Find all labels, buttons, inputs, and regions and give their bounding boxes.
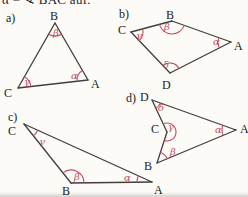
figure-d-tag: d) (126, 92, 136, 104)
figure-c-vertex-label-B: B (62, 185, 70, 197)
figure-d-angle-arc-alpha (222, 125, 223, 135)
figure-b-vertex-label-C: C (118, 24, 126, 36)
figure-d-angle-label-alpha: α (215, 125, 222, 135)
figure-d-angle-arc-beta (160, 153, 167, 159)
figure-d-vertex-label-B: B (144, 160, 152, 172)
figure-c-angle-arc-alpha (137, 176, 138, 182)
figure-d-angle-label-delta: δ (158, 103, 164, 113)
figure-c-vertex-label-C: C (8, 125, 16, 137)
figure-c-edge-CA (24, 124, 152, 182)
figure-d-edge-BC (157, 132, 167, 163)
figure-a-angle-label-beta: β (53, 28, 59, 38)
figure-b-vertex-label-D: D (162, 79, 171, 91)
figure-d-angle-label-beta: β (170, 147, 176, 157)
figure-b-angle-label-gamma: γ (136, 31, 142, 41)
figure-b-angle-label-beta: β (164, 22, 170, 32)
figure-c-edge-CB (24, 124, 71, 183)
figure-c-vertex-label-A: A (154, 184, 163, 196)
textbook-page: α = ∢ BAC auf. a)BACβαγb)BCADβγαδc)CBAγβ… (0, 0, 248, 197)
figure-b-vertex-label-B: B (166, 9, 174, 21)
figure-b-angle-label-alpha: α (213, 37, 220, 47)
figure-d-vertex-label-A: A (240, 123, 248, 135)
figure-d-vertex-label-C: C (151, 123, 159, 135)
figure-a-angle-label-alpha: α (71, 71, 78, 81)
figure-a-vertex-label-C: C (4, 87, 12, 99)
figure-b-tag: b) (119, 8, 129, 20)
figure-a-angle-label-gamma: γ (24, 77, 30, 87)
figure-c-angle-arc-gamma (33, 130, 37, 136)
figure-a-tag: a) (6, 12, 15, 24)
figure-c-tag: c) (8, 111, 17, 123)
figure-b-angle-label-delta: δ (163, 60, 169, 70)
figure-c-angle-label-beta: β (74, 172, 80, 182)
figure-b-edge-BA (172, 21, 231, 42)
figure-c (24, 124, 152, 183)
figure-b-vertex-label-A: A (234, 40, 243, 52)
figure-b (131, 21, 231, 73)
figure-b-edge-AD (170, 42, 231, 73)
figure-d-vertex-label-D: D (140, 91, 149, 103)
figure-d-edge-AB (157, 130, 236, 163)
figure-c-edge-BA (71, 182, 152, 183)
figure-c-angle-label-alpha: α (124, 173, 131, 183)
figure-a-vertex-label-A: A (91, 78, 100, 90)
figure-c-angle-label-gamma: γ (39, 137, 45, 147)
figure-d-angle-label-gamma: γ (168, 122, 174, 132)
figure-a-vertex-label-B: B (50, 10, 58, 22)
figure-d (152, 100, 236, 163)
